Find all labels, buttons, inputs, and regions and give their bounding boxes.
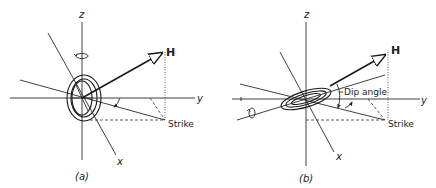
- strike-label-b: Strike: [388, 119, 414, 129]
- z-axis-label-b: z: [303, 9, 310, 20]
- strike-angle-arc-b: [345, 102, 352, 108]
- strike-angle-arc-a: [114, 98, 120, 107]
- panel-b: z y x H Strike Dip angle (b): [232, 9, 428, 184]
- panel-a: z y x H Strike (a): [10, 9, 204, 182]
- z-axis-label-a: z: [78, 9, 85, 20]
- strike-line-a: [20, 80, 165, 120]
- x-axis-label-b: x: [335, 151, 342, 162]
- coil-axis-b: [237, 75, 385, 120]
- dip-angle-label-b: Dip angle: [344, 87, 387, 97]
- caption-a: (a): [75, 171, 89, 182]
- y-axis-label-a: y: [196, 93, 204, 104]
- rotation-arrow-icon: [74, 54, 88, 59]
- h-vector-b: [330, 55, 385, 86]
- strike-label-a: Strike: [168, 119, 194, 129]
- y-axis-label-b: y: [420, 95, 428, 106]
- dip-strike-figure: z y x H Strike (a): [0, 0, 436, 188]
- x-axis-label-a: x: [116, 156, 123, 167]
- h-vector-a: [82, 53, 162, 98]
- h-label-b: H: [391, 44, 400, 57]
- caption-b: (b): [299, 173, 313, 184]
- dip-angle-arc-b: [337, 84, 340, 108]
- h-label-a: H: [166, 46, 175, 59]
